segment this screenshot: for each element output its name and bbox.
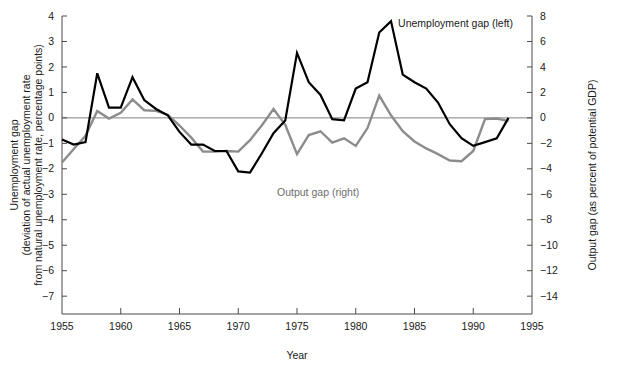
x-tick-label: 1985 <box>403 320 427 332</box>
x-tick-label: 1955 <box>50 320 74 332</box>
chart-container: 43210−1−2−3−4−5−6−7 86420−2−4−6−8−10−12−… <box>0 0 623 367</box>
series-unemployment-gap <box>62 21 509 173</box>
x-tick-label: 1965 <box>168 320 192 332</box>
x-tick-label: 1990 <box>462 320 486 332</box>
left-axis-title-line: Unemployment gap <box>8 119 20 210</box>
right-axis-title: Output gap (as percent of potential GDP) <box>586 80 598 271</box>
x-tick-label: 1995 <box>520 320 544 332</box>
axis-titles: Year Unemployment gap(deviation of actua… <box>8 44 598 361</box>
x-tick-label: 1970 <box>227 320 251 332</box>
series-annotation-unemployment: Unemployment gap (left) <box>398 17 513 29</box>
right-tick-label: −10 <box>540 239 558 251</box>
right-tick-label: −6 <box>540 188 552 200</box>
left-tick-label: 4 <box>48 10 54 22</box>
x-axis-title: Year <box>286 349 308 361</box>
right-tick-label: −12 <box>540 264 558 276</box>
right-tick-label: −2 <box>540 137 552 149</box>
right-tick-label: −8 <box>540 213 552 225</box>
left-tick-label: −7 <box>42 290 54 302</box>
left-axis-ticks: 43210−1−2−3−4−5−6−7 <box>42 10 67 302</box>
left-axis-title: Unemployment gap(deviation of actual une… <box>8 44 44 286</box>
left-tick-label: 0 <box>48 111 54 123</box>
series-output-gap <box>62 96 509 163</box>
right-tick-label: 8 <box>540 10 546 22</box>
left-tick-label: 3 <box>48 35 54 47</box>
right-tick-label: 0 <box>540 111 546 123</box>
x-tick-label: 1980 <box>344 320 368 332</box>
left-tick-label: 2 <box>48 61 54 73</box>
right-tick-label: 2 <box>540 86 546 98</box>
series-annotation-output: Output gap (right) <box>277 186 359 198</box>
left-tick-label: 1 <box>48 86 54 98</box>
left-axis-title-line: from natural unemployment rate, percenta… <box>32 44 44 286</box>
x-tick-label: 1960 <box>109 320 133 332</box>
x-tick-label: 1975 <box>285 320 309 332</box>
plot-axes <box>62 16 532 314</box>
left-axis-title-line: (deviation of actual unemployment rate <box>20 74 32 255</box>
gap-line-chart: 43210−1−2−3−4−5−6−7 86420−2−4−6−8−10−12−… <box>0 0 623 367</box>
right-tick-label: −4 <box>540 162 552 174</box>
right-tick-label: 4 <box>540 61 546 73</box>
data-series-group <box>62 21 509 173</box>
right-tick-label: 6 <box>540 35 546 47</box>
x-axis-ticks: 195519601965197019751980198519901995 <box>50 308 544 332</box>
right-tick-label: −14 <box>540 290 558 302</box>
